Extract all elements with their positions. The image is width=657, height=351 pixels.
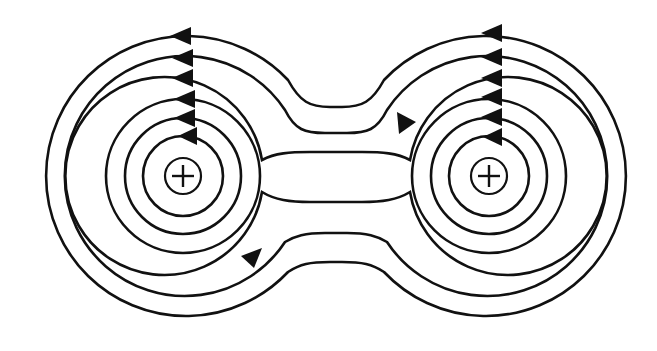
arrow-left-icon [483,128,502,146]
field-loop-outer [46,36,626,316]
arrow-left-icon [481,88,502,106]
arrow-left-icon [174,109,195,127]
arrow-left-icon [172,49,193,67]
arrow-left-icon [178,127,197,145]
charge-left [165,158,201,194]
arrow-left-icon [481,48,502,66]
left-arrow-column [170,27,197,145]
field-line-diagram [0,0,657,351]
field-loop-middle [65,56,607,296]
arrow-left-icon [170,27,191,45]
arrow-left-icon [172,69,193,87]
arrow-up-right-icon [241,248,262,268]
shared-field-loops [46,36,626,316]
arrow-left-icon [481,24,502,42]
arrow-left-icon [174,90,195,108]
arrow-left-icon [481,69,502,87]
right-arrow-column [481,24,502,146]
charge-right [471,158,507,194]
arrow-down-right-icon [397,112,416,134]
arrow-left-icon [481,108,502,126]
